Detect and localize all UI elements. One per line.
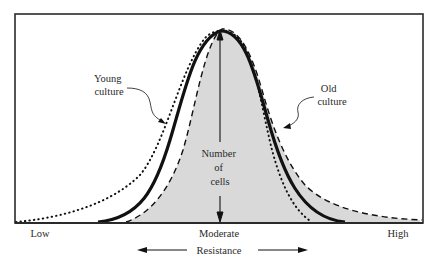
young-culture-label: Young culture <box>94 73 124 97</box>
x-tick-low: Low <box>30 228 50 239</box>
left-arrow-icon <box>137 247 187 253</box>
right-arrow-icon <box>258 247 308 253</box>
young-culture-pointer-icon <box>127 88 166 124</box>
resistance-distribution-diagram: Number of cells Young culture Old cultur… <box>0 0 436 265</box>
old-culture-pointer-icon <box>283 97 314 129</box>
old-culture-label: Old culture <box>317 83 346 107</box>
x-tick-high: High <box>388 228 410 239</box>
x-tick-moderate: Moderate <box>199 228 240 239</box>
old-culture-shaded-area <box>126 29 420 222</box>
x-axis-title: Resistance <box>197 245 242 256</box>
